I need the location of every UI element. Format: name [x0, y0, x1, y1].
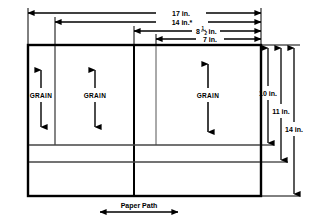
dim-label-8half-unit: in. — [209, 28, 217, 35]
background — [0, 0, 314, 221]
grain-label-3: GRAIN — [197, 92, 219, 99]
diagram-canvas: 17 in. 14 in.* 8 1 2 in. 7 in. GRAIN — [0, 0, 314, 221]
dim-label-14in: 14 in. — [285, 126, 303, 133]
paper-path-label: Paper Path — [121, 202, 158, 210]
dim-label-7in: 7 in. — [203, 36, 217, 43]
grain-label-2: GRAIN — [84, 92, 106, 99]
dim-label-10in: 10 in. — [259, 90, 277, 97]
dim-label-17in: 17 in. — [172, 10, 190, 17]
paper-grain-diagram: 17 in. 14 in.* 8 1 2 in. 7 in. GRAIN — [0, 0, 314, 221]
dim-label-11in: 11 in. — [272, 108, 290, 115]
grain-label-1: GRAIN — [30, 92, 52, 99]
dim-label-8half-whole: 8 — [196, 28, 200, 35]
dim-label-14in: 14 in.* — [172, 19, 193, 26]
